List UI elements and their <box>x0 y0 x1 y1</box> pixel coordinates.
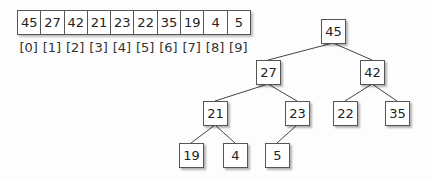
tree-node: 35 <box>385 101 410 126</box>
tree-edge <box>215 84 268 101</box>
tree-node: 22 <box>333 101 358 126</box>
tree-node: 4 <box>223 143 248 168</box>
tree-node: 42 <box>360 60 385 85</box>
tree-edge <box>345 84 372 101</box>
heap-diagram: 45 27 42 21 23 22 35 19 4 5 [0] [1] [2] … <box>0 0 432 179</box>
tree-node: 19 <box>179 143 204 168</box>
tree-node: 5 <box>265 143 290 168</box>
tree-edge <box>333 43 372 60</box>
tree-edge <box>372 84 397 101</box>
tree-edge <box>268 43 333 60</box>
tree-edges <box>0 0 432 179</box>
tree-edge <box>215 125 235 143</box>
tree-edge <box>191 125 215 143</box>
tree-node: 21 <box>203 101 228 126</box>
tree-node: 45 <box>321 19 346 44</box>
tree-node: 23 <box>285 101 310 126</box>
tree-edge <box>277 125 297 143</box>
tree-node: 27 <box>256 60 281 85</box>
tree-edge <box>268 84 297 101</box>
